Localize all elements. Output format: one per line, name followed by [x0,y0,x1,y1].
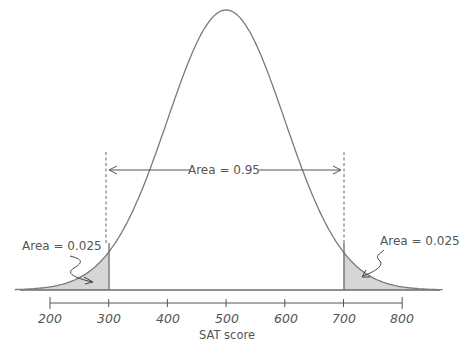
tick-label-600: 600 [274,311,298,326]
tick-label-800: 800 [390,311,414,326]
right-squiggle-arrow-icon [363,250,384,276]
x-axis-tick-labels: 200 300 400 500 600 700 800 [38,311,414,326]
normal-curve-chart: Area = 0.95 Area = 0.025 Area = 0.025 20… [0,0,470,352]
tick-label-700: 700 [332,311,356,326]
tick-label-500: 500 [215,311,239,326]
tick-label-400: 400 [156,311,180,326]
right-tail-shaded-region [344,252,444,290]
x-axis-label: SAT score [199,328,255,342]
tick-label-300: 300 [97,311,121,326]
center-area-label: Area = 0.95 [188,163,260,177]
left-area-label: Area = 0.025 [22,239,102,253]
tick-label-200: 200 [38,311,62,326]
right-area-label: Area = 0.025 [380,234,460,248]
